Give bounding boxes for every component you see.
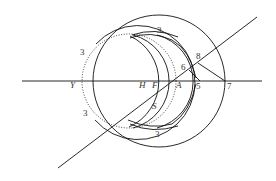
label-6: 6 <box>181 62 186 72</box>
label-A: A <box>175 80 182 90</box>
label-8: 8 <box>196 51 201 61</box>
geometric-diagram: Y H F A S 3 3 3 3 5 6 7 8 <box>0 0 276 181</box>
label-S: S <box>152 101 157 111</box>
label-7: 7 <box>227 81 232 91</box>
label-3-bottom: 3 <box>155 129 160 139</box>
label-3-top: 3 <box>157 25 162 35</box>
label-3-left-bottom: 3 <box>83 108 88 118</box>
segment-8-7 <box>198 63 225 81</box>
label-Y: Y <box>70 80 76 90</box>
label-5: 5 <box>196 81 201 91</box>
label-3-left-top: 3 <box>80 47 85 57</box>
label-H: H <box>138 80 146 90</box>
label-F: F <box>151 80 158 90</box>
crescent-tip-bottom <box>128 84 196 126</box>
